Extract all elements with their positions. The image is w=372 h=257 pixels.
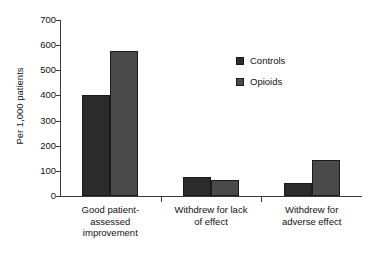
controls-swatch [236,57,244,65]
y-tick-mark [56,196,60,197]
x-tick-mark [261,197,262,202]
category-label-line: Withdrew for lack [158,204,265,216]
y-tick-mark [56,146,60,147]
y-tick-label: 300 [30,116,56,125]
category-label-line: Good patient- [57,204,164,216]
x-axis-line [60,196,362,197]
bar-group [284,20,340,196]
legend-label: Controls [250,55,285,66]
category-label-line: adverse effect [258,216,365,228]
category-label: Good patient-assessedimprovement [57,204,164,239]
legend-label: Opioids [250,76,282,87]
y-tick-label: 0 [30,191,56,200]
y-tick-label: 400 [30,90,56,99]
category-label-line: of effect [158,216,265,228]
y-tick-label: 600 [30,40,56,49]
bar-group [82,20,138,196]
y-axis-ticks: 0100200300400500600700 [26,0,56,257]
y-axis-label: Per 1,000 patients [13,16,27,196]
legend-item: Controls [236,55,285,66]
category-label-line: improvement [57,227,164,239]
bar-chart: Per 1,000 patients 010020030040050060070… [0,0,372,257]
y-tick-mark [56,70,60,71]
y-tick-label: 200 [30,141,56,150]
x-tick-mark [161,197,162,202]
category-label-line: assessed [57,216,164,228]
opioids-swatch [236,78,244,86]
chart-legend: ControlsOpioids [236,55,285,97]
bar-controls-2 [284,183,312,196]
y-tick-label: 100 [30,166,56,175]
y-tick-mark [56,171,60,172]
category-label-line: Withdrew for [258,204,365,216]
bar-opioids-1 [211,180,239,196]
bar-controls-1 [183,177,211,196]
plot-area [60,20,362,196]
y-tick-label: 700 [30,15,56,24]
category-label: Withdrew for lackof effect [158,204,265,227]
y-tick-mark [56,20,60,21]
bar-opioids-0 [110,51,138,196]
y-tick-mark [56,95,60,96]
y-tick-mark [56,45,60,46]
bar-controls-0 [82,95,110,196]
bar-opioids-2 [312,160,340,196]
legend-item: Opioids [236,76,285,87]
y-tick-label: 500 [30,65,56,74]
y-tick-mark [56,121,60,122]
category-label: Withdrew foradverse effect [258,204,365,227]
bar-group [183,20,239,196]
